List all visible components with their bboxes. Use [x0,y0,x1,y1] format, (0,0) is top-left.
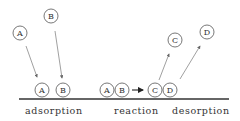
label-adsorption: adsorption [25,105,83,116]
svg-text:A: A [16,29,23,38]
svg-text:B: B [60,86,66,95]
svg-text:D: D [167,86,173,95]
label-reaction: reaction [114,105,159,116]
svg-text:C: C [172,36,178,45]
svg-text:D: D [204,28,210,37]
reactant-molecule-a: A [100,83,114,97]
svg-text:A: A [103,86,110,95]
surface-reaction-diagram: A B A B A B C D C D a [0,0,240,121]
desorbed-molecule-c: C [168,33,182,47]
svg-text:A: A [38,86,45,95]
adsorption-arrow-b [55,31,62,78]
reactant-molecule-b: B [115,83,129,97]
svg-text:B: B [119,86,125,95]
desorption-arrow-c [159,54,169,80]
gas-molecule-b: B [44,9,58,23]
product-molecule-c: C [148,83,162,97]
adsorbed-molecule-b: B [56,83,70,97]
desorption-arrow-d [180,46,200,79]
desorbed-molecule-d: D [200,25,214,39]
product-molecule-d: D [163,83,177,97]
gas-molecule-a: A [13,26,27,40]
adsorbed-molecule-a: A [35,83,49,97]
label-desorption: desorption [172,105,230,116]
adsorption-arrow-a [26,46,37,77]
svg-text:C: C [152,86,158,95]
svg-text:B: B [48,12,54,21]
